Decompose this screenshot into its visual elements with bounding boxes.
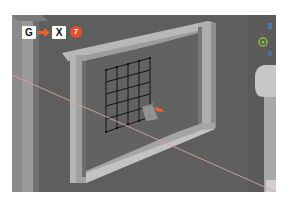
3d-viewport[interactable] (12, 15, 276, 192)
step-number-badge: 7 (70, 26, 82, 38)
right-arrow-icon (36, 26, 52, 39)
key-x: X (52, 26, 66, 39)
shortcut-overlay: G X 7 (22, 25, 82, 39)
scene (12, 15, 276, 192)
key-g: G (22, 26, 36, 39)
